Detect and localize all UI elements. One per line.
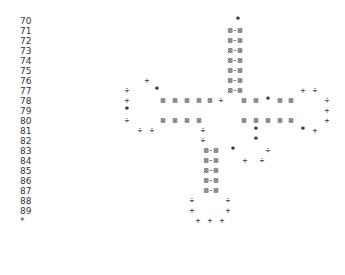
plot-glyph: ⊠-⊠	[228, 76, 242, 86]
plot-glyph: ⊠	[161, 96, 166, 106]
plot-glyph: ⊠	[242, 116, 247, 126]
plot-row: 74⊠-⊠	[0, 56, 345, 66]
plot-glyph: *	[301, 126, 306, 136]
plot-row: 87⊠-⊠	[0, 186, 345, 196]
plot-glyph: *	[125, 106, 130, 116]
plot-glyph: ÷	[201, 136, 206, 146]
row-label: 81	[20, 126, 31, 136]
row-label: 83	[20, 146, 31, 156]
plot-glyph: ÷	[313, 86, 318, 96]
plot-glyph: +	[313, 126, 318, 136]
plot-row: 83⊠-⊠*÷	[0, 146, 345, 156]
plot-glyph: +	[325, 116, 330, 126]
plot-glyph: *	[155, 86, 160, 96]
plot-glyph: *	[266, 96, 271, 106]
plot-glyph: ⊠-⊠	[228, 86, 242, 96]
row-label: 86	[20, 176, 31, 186]
plot-glyph: ⊠-⊠	[204, 186, 218, 196]
plot-glyph: ⊠-⊠	[228, 36, 242, 46]
plot-glyph: *	[236, 16, 241, 26]
plot-glyph: ÷	[201, 126, 206, 136]
row-label: 82	[20, 136, 31, 146]
plot-glyph: ⊠-⊠	[204, 166, 218, 176]
row-label: 77	[20, 86, 31, 96]
plot-row: 82÷*	[0, 136, 345, 146]
plot-glyph: +	[226, 206, 231, 216]
plot-row: 89++	[0, 206, 345, 216]
plot-glyph: ÷	[325, 96, 330, 106]
row-label: 75	[20, 66, 31, 76]
row-label: 80	[20, 116, 31, 126]
plot-row: 77÷*⊠-⊠+÷	[0, 86, 345, 96]
plot-glyph: ⊠-⊠	[228, 66, 242, 76]
plot-glyph: ÷	[150, 126, 155, 136]
plot-glyph: +	[196, 216, 201, 226]
row-label: 74	[20, 56, 31, 66]
plot-glyph: ⊠	[254, 96, 259, 106]
plot-glyph: ⊠	[289, 96, 294, 106]
plot-row: 85⊠-⊠	[0, 166, 345, 176]
plot-glyph: +	[243, 156, 248, 166]
plot-glyph: ⊠-⊠	[204, 146, 218, 156]
plot-row: 80÷⊠⊠⊠⊠⊠⊠⊠⊠⊠+	[0, 116, 345, 126]
row-label: 78	[20, 96, 31, 106]
plot-glyph: ⊠	[254, 116, 259, 126]
plot-row: *+++	[0, 216, 345, 226]
plot-glyph: +	[301, 86, 306, 96]
plot-glyph: +	[220, 216, 225, 226]
plot-glyph: ⊠-⊠	[204, 176, 218, 186]
plot-glyph: +	[145, 76, 150, 86]
plot-glyph: ⊠	[161, 116, 166, 126]
plot-glyph: *	[254, 136, 259, 146]
plot-glyph: ⊠-⊠	[228, 46, 242, 56]
row-label: 71	[20, 26, 31, 36]
row-label: 85	[20, 166, 31, 176]
plot-glyph: ÷	[266, 146, 271, 156]
plot-glyph: ⊠	[208, 96, 213, 106]
row-label: 84	[20, 156, 31, 166]
plot-glyph: +	[208, 216, 213, 226]
row-label: 87	[20, 186, 31, 196]
plot-row: 78+⊠⊠⊠⊠⊠÷⊠⊠*⊠⊠÷	[0, 96, 345, 106]
row-label: 70	[20, 16, 31, 26]
plot-glyph: ⊠	[266, 116, 271, 126]
plot-glyph: ⊠	[173, 116, 178, 126]
plot-glyph: ⊠	[289, 116, 294, 126]
plot-glyph: ÷	[138, 126, 143, 136]
plot-glyph: *	[231, 146, 236, 156]
plot-glyph: ÷	[125, 86, 130, 96]
plot-row: 71⊠-⊠	[0, 26, 345, 36]
row-label: 73	[20, 46, 31, 56]
plot-row: 73⊠-⊠	[0, 46, 345, 56]
plot-glyph: ÷	[190, 196, 195, 206]
plot-glyph: +	[325, 106, 330, 116]
plot-glyph: ⊠-⊠	[228, 26, 242, 36]
plot-row: 70*	[0, 16, 345, 26]
plot-glyph: ⊠-⊠	[204, 156, 218, 166]
plot-row: 72⊠-⊠	[0, 36, 345, 46]
plot-glyph: *	[254, 126, 259, 136]
plot-glyph: ⊠-⊠	[228, 56, 242, 66]
plot-glyph: ⊠	[185, 116, 190, 126]
plot-glyph: ⊠	[197, 116, 202, 126]
plot-glyph: ⊠	[242, 96, 247, 106]
plot-row: 75⊠-⊠	[0, 66, 345, 76]
plot-glyph: ⊠	[278, 116, 283, 126]
plot-glyph: ⊠	[197, 96, 202, 106]
plot-glyph: ⊠	[278, 96, 283, 106]
row-label: 79	[20, 106, 31, 116]
plot-glyph: +	[125, 96, 130, 106]
plot-glyph: ÷	[125, 116, 130, 126]
row-label: 89	[20, 206, 31, 216]
plot-glyph: ÷	[226, 196, 231, 206]
plot-row: 88÷÷	[0, 196, 345, 206]
plot-row: 86⊠-⊠	[0, 176, 345, 186]
plot-row: 76+⊠-⊠	[0, 76, 345, 86]
plot-row: 79*+	[0, 106, 345, 116]
plot-glyph: +	[190, 206, 195, 216]
row-label: 88	[20, 196, 31, 206]
plot-glyph: ⊠	[185, 96, 190, 106]
row-label: 72	[20, 36, 31, 46]
plot-glyph: ⊠	[173, 96, 178, 106]
plot-glyph: ÷	[219, 96, 224, 106]
